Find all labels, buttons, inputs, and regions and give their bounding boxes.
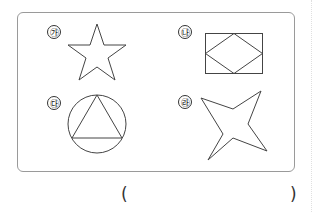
figure-label-na: ㉯ <box>178 25 192 39</box>
answer-open-paren: ( <box>121 184 128 204</box>
figure-label-da: ㉰ <box>47 96 61 110</box>
rectangle-rhombus-icon <box>205 33 265 75</box>
figure-label-ga: ㉮ <box>47 25 61 39</box>
figure-label-ra: ㉱ <box>178 95 192 109</box>
margin-guide <box>311 0 312 212</box>
answer-close-paren: ) <box>290 184 297 204</box>
star-icon <box>65 22 129 82</box>
answer-blank[interactable] <box>135 184 285 204</box>
circle-triangle-icon <box>67 94 129 156</box>
four-point-star-icon <box>200 90 270 160</box>
